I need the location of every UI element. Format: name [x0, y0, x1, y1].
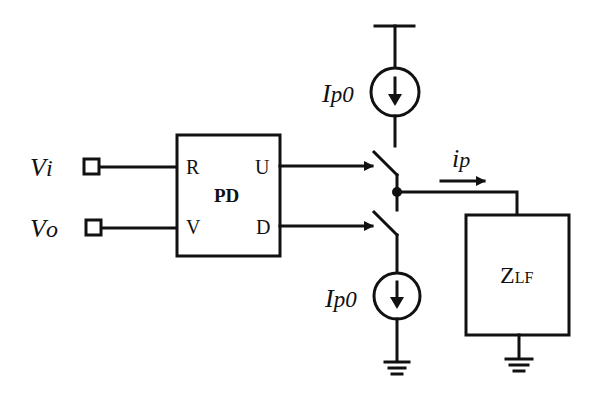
pd-port-d: D — [256, 216, 270, 238]
svg-text:Vi: Vi — [30, 153, 53, 182]
up-switch — [374, 152, 397, 210]
output-current-label-main: i — [452, 144, 459, 173]
svg-text:ip: ip — [452, 144, 470, 173]
pd-port-r: R — [186, 156, 200, 178]
pd-port-u: U — [255, 156, 270, 178]
input-vi: Vi — [30, 153, 177, 182]
ground-icon — [385, 362, 409, 374]
pd-label: PD — [214, 185, 239, 206]
svg-text:Vo: Vo — [30, 214, 58, 243]
up-current-source: Ip0 — [321, 26, 419, 146]
phase-detector: R V U D PD — [177, 135, 280, 256]
down-current-source: Ip0 — [324, 273, 420, 361]
output-current-label-sub: p — [457, 147, 470, 172]
charge-pump-diagram: Vi Vo R V U D PD Ip0 — [0, 0, 607, 399]
loop-filter: ZLF — [466, 215, 569, 358]
loop-filter-label-main: Z — [500, 262, 515, 288]
ground-icon — [506, 359, 532, 371]
down-switch — [374, 212, 397, 273]
down-source-label-sub: p0 — [332, 287, 358, 312]
vi-terminal[interactable] — [84, 159, 99, 174]
vo-label-sub: o — [46, 216, 58, 242]
down-switch-blade — [374, 212, 397, 235]
svg-text:Ip0: Ip0 — [321, 79, 354, 108]
vi-label-sub: i — [46, 155, 53, 181]
output-wire — [397, 192, 517, 215]
up-source-label-sub: p0 — [329, 82, 355, 107]
up-switch-blade — [374, 152, 397, 175]
svg-text:Ip0: Ip0 — [324, 284, 357, 313]
loop-filter-label-sub: LF — [515, 269, 534, 286]
input-vo: Vo — [30, 214, 177, 243]
pd-port-v: V — [186, 216, 201, 238]
vo-terminal[interactable] — [86, 220, 101, 235]
output-current: ip — [441, 144, 484, 181]
